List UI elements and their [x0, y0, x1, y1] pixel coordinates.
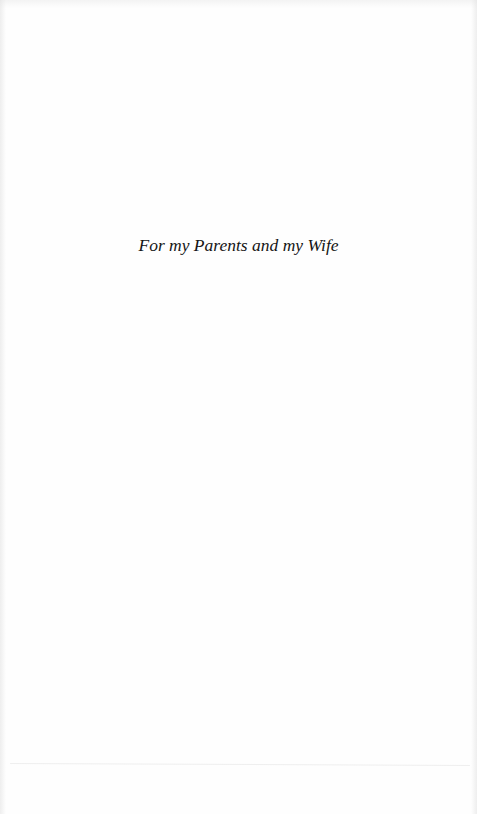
page-edge-top — [0, 0, 477, 8]
page-edge-right — [471, 0, 477, 814]
page-edge-left — [0, 0, 6, 814]
scan-artifact-line — [10, 763, 470, 766]
dedication-text: For my Parents and my Wife — [0, 234, 477, 256]
book-page: For my Parents and my Wife — [0, 0, 477, 814]
